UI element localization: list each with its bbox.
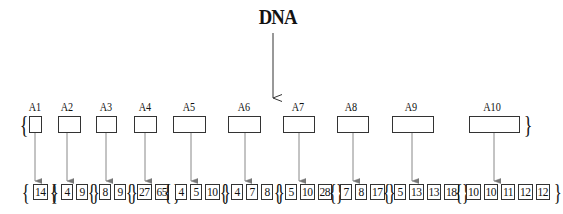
array-label: A10 bbox=[483, 100, 502, 115]
array-box-a1 bbox=[29, 116, 42, 133]
open-brace: { bbox=[220, 181, 228, 203]
array-box-a3 bbox=[96, 116, 117, 133]
open-brace: { bbox=[329, 181, 337, 203]
value-group-a10: { 10 10 11 12 12 } bbox=[453, 181, 563, 203]
close-brace: } bbox=[553, 181, 561, 203]
array-label: A5 bbox=[182, 100, 196, 115]
value-cell: 11 bbox=[501, 184, 515, 200]
open-brace: { bbox=[274, 181, 282, 203]
open-brace: { bbox=[455, 181, 463, 203]
array-box-a5 bbox=[173, 116, 206, 133]
close-brace: } bbox=[524, 112, 533, 138]
open-brace: { bbox=[126, 181, 134, 203]
open-brace: { bbox=[88, 181, 96, 203]
array-box-a9 bbox=[392, 116, 434, 133]
value-cell: 10 bbox=[300, 184, 315, 200]
array-label: A9 bbox=[404, 100, 418, 115]
open-brace: { bbox=[20, 112, 29, 138]
array-label: A7 bbox=[291, 100, 305, 115]
array-label: A6 bbox=[237, 100, 251, 115]
value-cell: 13 bbox=[427, 184, 442, 200]
array-box-a2 bbox=[58, 116, 81, 133]
value-cell: 8 bbox=[99, 184, 111, 200]
array-label: A4 bbox=[138, 100, 152, 115]
value-cell: 12 bbox=[536, 184, 551, 200]
value-cell: 7 bbox=[246, 184, 258, 200]
value-cell: 7 bbox=[340, 184, 352, 200]
value-cell: 10 bbox=[484, 184, 499, 200]
array-box-a6 bbox=[228, 116, 261, 133]
value-cell: 4 bbox=[231, 184, 243, 200]
value-cell: 10 bbox=[466, 184, 481, 200]
value-cell: 12 bbox=[518, 184, 533, 200]
value-cell: 8 bbox=[355, 184, 367, 200]
open-brace: { bbox=[164, 181, 172, 203]
value-cell: 14 bbox=[33, 184, 48, 200]
open-brace: { bbox=[383, 181, 391, 203]
array-label: A2 bbox=[60, 100, 74, 115]
value-cell: 27 bbox=[137, 184, 152, 200]
open-brace: { bbox=[50, 181, 58, 203]
value-cell: 13 bbox=[409, 184, 424, 200]
array-box-a10 bbox=[469, 116, 520, 133]
value-cell: 5 bbox=[285, 184, 297, 200]
array-label: A8 bbox=[344, 100, 358, 115]
value-cell: 5 bbox=[394, 184, 406, 200]
value-cell: 5 bbox=[190, 184, 202, 200]
array-arrows bbox=[35, 133, 494, 181]
value-cell: 4 bbox=[61, 184, 73, 200]
value-cell: 4 bbox=[175, 184, 187, 200]
array-box-a8 bbox=[337, 116, 369, 133]
array-box-a4 bbox=[134, 116, 157, 133]
array-label: A3 bbox=[99, 100, 113, 115]
array-label: A1 bbox=[28, 100, 42, 115]
array-box-a7 bbox=[283, 116, 315, 133]
open-brace: { bbox=[22, 181, 30, 203]
